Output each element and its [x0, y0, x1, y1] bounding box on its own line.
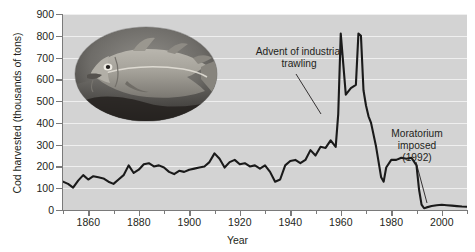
leader-line-moratorium — [416, 162, 427, 203]
annotation-leader-lines — [0, 0, 475, 252]
cod-harvest-chart: Cod harvested (thousands of tons) Year 0… — [0, 0, 475, 252]
leader-line-trawling — [296, 74, 321, 114]
